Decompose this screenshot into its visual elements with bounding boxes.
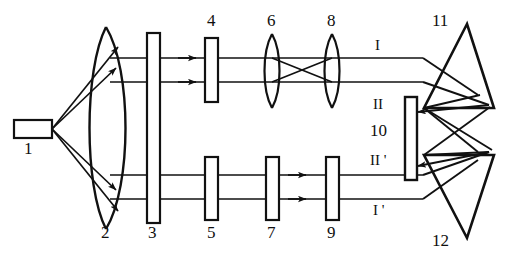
lower-prism-body xyxy=(424,155,494,238)
component-label-11: 11 xyxy=(432,12,448,29)
component-label-1: 1 xyxy=(24,140,33,157)
component-label-4: 4 xyxy=(207,12,216,29)
detector-screen-body xyxy=(405,97,417,180)
component-label-7: 7 xyxy=(267,224,276,241)
beam-label-I: I xyxy=(375,38,380,53)
component-label-6: 6 xyxy=(267,12,276,29)
upper-lens-8-body xyxy=(325,34,340,108)
component-label-12: 12 xyxy=(432,232,449,249)
optical-diagram: 1 2 3 4 5 6 7 8 9 10 11 12 I II II ' I ' xyxy=(0,0,505,257)
beam-crossover xyxy=(272,58,332,82)
component-label-9: 9 xyxy=(327,224,336,241)
prism-internal-rays xyxy=(418,58,492,199)
upper-plate-4-body xyxy=(205,38,218,102)
component-label-10: 10 xyxy=(370,122,387,139)
lower-plate-5-body xyxy=(205,157,218,220)
upper-lens-6-body xyxy=(265,34,280,108)
source-ray-bundle xyxy=(52,47,118,211)
optical-ray-diagram-canvas xyxy=(0,0,505,257)
beam-label-II-prime: II ' xyxy=(370,153,386,168)
component-label-5: 5 xyxy=(207,224,216,241)
beam-label-I-prime: I ' xyxy=(373,203,384,218)
tall-plate-body xyxy=(147,33,160,223)
component-label-2: 2 xyxy=(101,224,110,241)
light-source-body xyxy=(14,120,52,138)
beam-direction-arrows xyxy=(178,58,306,199)
component-label-8: 8 xyxy=(327,12,336,29)
component-label-3: 3 xyxy=(148,224,157,241)
lower-plate-9-body xyxy=(326,157,339,220)
beam-label-II: II xyxy=(373,97,383,112)
lower-plate-7-body xyxy=(266,157,279,220)
